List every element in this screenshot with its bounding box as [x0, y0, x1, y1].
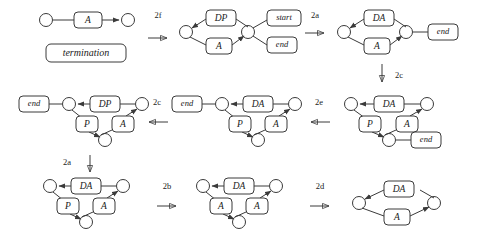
graph-node: [180, 26, 193, 39]
edge-label-A: A: [253, 201, 260, 211]
step-2a-top: 2a: [305, 10, 324, 33]
graph-node: [233, 216, 246, 229]
step-2a-bottom-label: 2a: [63, 157, 71, 167]
attached-label-start: start: [276, 12, 292, 22]
edge-line-arrow: [242, 132, 253, 137]
graph-node: [353, 197, 366, 210]
edge-label-P: P: [83, 119, 90, 129]
step-2b-label: 2b: [163, 181, 172, 191]
step-2f: 2f: [148, 10, 167, 38]
edge-line-arrow: [89, 132, 100, 137]
graph-node: [428, 197, 441, 210]
edge-line: [394, 19, 406, 27]
attached-label-end: end: [276, 39, 289, 49]
edge-line-arrow: [70, 214, 81, 219]
edge-label-P: P: [64, 201, 71, 211]
edge-line: [236, 19, 248, 27]
graph-node: [63, 98, 76, 111]
edge-line-arrow: [126, 109, 137, 116]
edge-label-A: A: [100, 201, 107, 211]
edge-label-A: A: [393, 212, 400, 222]
graph-node: [421, 98, 434, 111]
edge-label-A: A: [272, 119, 279, 129]
graph-dp-p-a-end: DP P A end: [19, 96, 149, 147]
attached-label-end: end: [28, 98, 41, 108]
graph-da-a-end: DA A end: [338, 10, 459, 54]
step-2e-label: 2e: [315, 97, 323, 107]
graph-node: [117, 180, 130, 193]
edge-line-arrow: [372, 132, 384, 137]
step-2c-top-label: 2c: [395, 70, 403, 80]
edge-line-arrow: [350, 19, 364, 28]
graph-node: [289, 98, 302, 111]
graph-node: [99, 134, 112, 147]
edge-label-P: P: [366, 119, 373, 129]
step-2c-mid: 2c: [149, 97, 168, 122]
graph-da-a-final: DA A: [353, 181, 441, 225]
edge-line-arrow: [107, 191, 118, 198]
step-2f-label: 2f: [154, 10, 161, 20]
edge-label-DA: DA: [79, 181, 93, 191]
edge-line-arrow: [410, 207, 429, 216]
attached-label-end: end: [437, 26, 450, 36]
step-2a-top-label: 2a: [311, 10, 319, 20]
graph-rewriting-diagram: A termination 2f DP A: [0, 0, 480, 246]
edge-line-arrow: [279, 109, 290, 116]
step-2c-top: 2c: [382, 64, 403, 82]
graph-node: [383, 134, 396, 147]
edge-label-DA: DA: [392, 184, 406, 194]
edge-label-P: P: [236, 119, 243, 129]
graph-da-p-a: DA P A: [44, 178, 130, 229]
edge-line-arrow: [390, 36, 402, 45]
attached-label-end: end: [420, 134, 433, 144]
step-2d: 2d: [310, 181, 329, 206]
edge-label-DA: DA: [232, 181, 246, 191]
graph-node: [216, 98, 229, 111]
graph-node: [338, 26, 351, 39]
edge-line: [362, 208, 384, 216]
edge-line-arrow: [410, 109, 422, 116]
graph-da-p-a-end-right: DA P A end: [345, 96, 442, 148]
edge-line-arrow: [365, 190, 384, 199]
attached-label-end: end: [181, 98, 194, 108]
edge-label-DA: DA: [372, 13, 386, 23]
edge-label-DA: DA: [382, 99, 396, 109]
step-2a-bottom: 2a: [63, 155, 90, 172]
edge-label-DP: DP: [98, 99, 112, 109]
edge-line-arrow: [192, 19, 206, 28]
edge-label-DA: DA: [251, 99, 265, 109]
attached-line: [253, 20, 267, 28]
graph-node: [80, 216, 93, 229]
termination-annotation: termination: [46, 44, 126, 62]
step-2d-label: 2d: [316, 181, 325, 191]
attached-line: [253, 36, 267, 45]
edge-line-arrow: [260, 191, 271, 198]
graph-node: [345, 98, 358, 111]
graph-node: [252, 134, 265, 147]
edge-label-A: A: [119, 119, 126, 129]
step-2b: 2b: [157, 181, 176, 206]
graph-node: [270, 180, 283, 193]
edge-label-A: A: [215, 41, 222, 51]
diagram-page: A termination 2f DP A: [0, 0, 480, 246]
edge-line: [420, 190, 434, 198]
edge-label-A: A: [84, 15, 91, 25]
edge-line: [348, 37, 364, 45]
step-2c-mid-label: 2c: [153, 97, 161, 107]
graph-node: [44, 180, 57, 193]
edge-label-A: A: [373, 41, 380, 51]
graph-node: [136, 98, 149, 111]
graph-dp-a-start-end: DP A start end: [180, 10, 302, 54]
edge-line: [190, 37, 206, 45]
termination-label: termination: [63, 47, 110, 58]
edge-label-A: A: [217, 201, 224, 211]
edge-line-arrow: [232, 36, 244, 45]
graph-node: [122, 14, 135, 27]
step-2e: 2e: [311, 97, 330, 122]
graph-da-a-a: DA A A: [197, 178, 283, 229]
edge-label-DP: DP: [214, 13, 228, 23]
graph-node: [40, 14, 53, 27]
edge-label-A: A: [403, 119, 410, 129]
graph-da-p-a-end-center: DA P A end: [172, 96, 302, 147]
graph-node: [197, 180, 210, 193]
